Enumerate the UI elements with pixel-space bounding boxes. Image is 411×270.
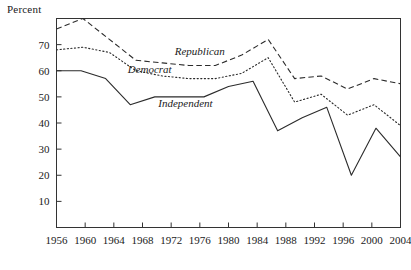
x-tick-label: 1996 — [332, 234, 355, 246]
x-tick-label: 1976 — [189, 234, 212, 246]
x-tick-label: 2004 — [390, 234, 411, 246]
y-axis-tick-labels: 10203040506070 — [39, 39, 51, 208]
series-label-democrat: Democrat — [127, 63, 173, 75]
y-axis-tick-marks — [57, 45, 62, 202]
chart-svg: 10203040506070 1956196019641968197219761… — [0, 0, 411, 270]
y-tick-label: 10 — [39, 195, 51, 207]
x-tick-label: 1964 — [103, 234, 126, 246]
x-tick-label: 1980 — [218, 234, 241, 246]
series-line-republican — [57, 19, 401, 90]
x-tick-label: 1992 — [304, 234, 326, 246]
x-tick-label: 1972 — [160, 234, 182, 246]
x-tick-label: 1960 — [74, 234, 97, 246]
series-label-independent: Independent — [157, 97, 213, 109]
y-tick-label: 70 — [39, 39, 51, 51]
y-tick-label: 60 — [39, 65, 51, 77]
plot-frame — [57, 19, 401, 228]
y-tick-label: 30 — [39, 143, 51, 155]
x-tick-label: 1984 — [246, 234, 269, 246]
y-tick-label: 20 — [39, 169, 51, 181]
x-tick-label: 2000 — [361, 234, 384, 246]
x-tick-label: 1968 — [132, 234, 155, 246]
x-axis-tick-labels: 1956196019641968197219761980198419881992… — [46, 234, 411, 246]
y-tick-label: 40 — [39, 117, 51, 129]
chart-container: Percent 10203040506070 19561960196419681… — [0, 0, 411, 270]
x-axis-tick-marks — [57, 223, 401, 228]
x-tick-label: 1988 — [275, 234, 298, 246]
y-tick-label: 50 — [39, 91, 51, 103]
series-line-independent — [57, 71, 401, 176]
series-label-republican: Republican — [174, 45, 226, 57]
x-tick-label: 1956 — [46, 234, 69, 246]
